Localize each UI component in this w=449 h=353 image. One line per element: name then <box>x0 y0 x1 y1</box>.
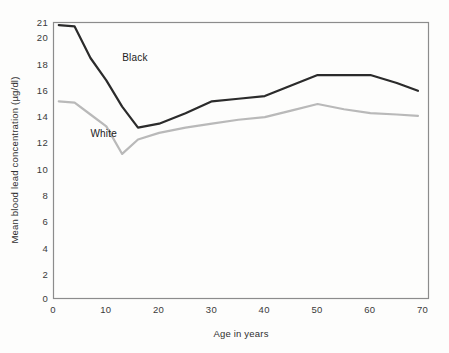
x-tick-label: 0 <box>50 304 56 315</box>
x-tick-label: 10 <box>100 304 111 315</box>
y-tick-label: 2 <box>42 269 48 280</box>
y-tick-label: 4 <box>42 243 48 254</box>
chart-figure: 21 20 18 16 14 12 10 8 6 4 2 0 0 10 20 3… <box>0 0 449 353</box>
plot-frame <box>54 23 429 299</box>
y-tick-label: 10 <box>37 164 48 175</box>
y-tick-label: 20 <box>37 32 48 43</box>
y-axis-title: Mean blood lead concentration (µg/dl) <box>9 76 20 243</box>
y-tick-label: 12 <box>37 137 48 148</box>
series-label-black: Black <box>122 52 148 63</box>
y-axis-ticks: 21 20 18 16 14 12 10 8 6 4 2 0 <box>37 17 48 304</box>
x-tick-label: 20 <box>153 304 164 315</box>
x-tick-label: 60 <box>364 304 375 315</box>
x-axis-ticks: 0 10 20 30 40 50 60 70 <box>50 304 428 315</box>
y-tick-label: 14 <box>37 111 48 122</box>
x-axis-title: Age in years <box>213 328 268 339</box>
line-chart: 21 20 18 16 14 12 10 8 6 4 2 0 0 10 20 3… <box>0 0 449 353</box>
y-tick-label: 0 <box>42 293 48 304</box>
y-tick-label: 16 <box>37 85 48 96</box>
y-tick-label: 21 <box>37 17 48 28</box>
series-label-white: White <box>90 128 117 139</box>
x-tick-label: 40 <box>259 304 270 315</box>
x-tick-label: 50 <box>311 304 322 315</box>
y-tick-label: 8 <box>42 190 48 201</box>
x-tick-label: 70 <box>417 304 428 315</box>
y-tick-label: 18 <box>37 59 48 70</box>
x-tick-label: 30 <box>206 304 217 315</box>
y-tick-label: 6 <box>42 216 48 227</box>
